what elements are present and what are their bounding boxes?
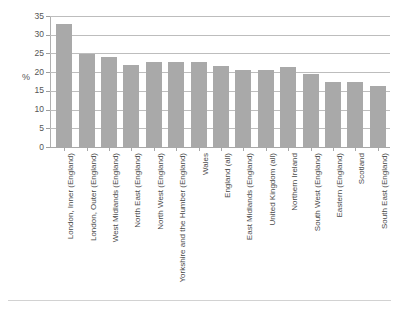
bar [168, 62, 184, 147]
x-tick-mark [333, 147, 334, 151]
x-tick-mark [288, 147, 289, 151]
x-tick-mark [311, 147, 312, 151]
x-axis-label-text: West Midlands (England) [112, 153, 120, 242]
x-axis-label-text: Scotland [358, 153, 366, 184]
y-tick-mark-20 [46, 72, 50, 73]
x-axis-label: Scotland [358, 153, 366, 184]
plot-area [50, 16, 390, 147]
x-axis-label-text: England (all) [224, 153, 232, 198]
x-axis-label: Wales [202, 153, 210, 175]
bar [123, 65, 139, 147]
x-axis-label: London, Outer (England) [90, 153, 98, 241]
x-tick-mark [176, 147, 177, 151]
x-tick-mark [64, 147, 65, 151]
y-tick-label-5: 5 [18, 124, 44, 133]
x-axis-label: Yorkshire and the Humber (England) [179, 153, 187, 283]
y-tick-label-35: 35 [18, 12, 44, 21]
y-tick-label-15: 15 [18, 86, 44, 95]
y-tick-mark-35 [46, 16, 50, 17]
x-axis-label: United Kingdom (all) [269, 153, 277, 225]
bar [213, 66, 229, 147]
y-tick-mark-10 [46, 110, 50, 111]
x-axis-label-text: North West (England) [157, 153, 165, 230]
bar-chart: % 05101520253035 London, Inner (England)… [0, 0, 399, 312]
y-tick-label-30: 30 [18, 30, 44, 39]
x-axis-label: England (all) [224, 153, 232, 198]
bar [235, 70, 251, 147]
x-axis-label: North East (England) [134, 153, 142, 228]
x-axis-label-text: London, Inner (England) [67, 153, 75, 239]
x-axis-label-text: United Kingdom (all) [269, 153, 277, 225]
x-axis-label-text: London, Outer (England) [90, 153, 98, 241]
y-tick-mark-15 [46, 91, 50, 92]
x-axis-label: Northern Ireland [291, 153, 299, 211]
x-axis-label: North West (England) [157, 153, 165, 230]
x-axis-label-text: East Midlands (England) [246, 153, 254, 240]
bar [258, 70, 274, 147]
x-tick-mark [154, 147, 155, 151]
x-axis-labels: London, Inner (England)London, Outer (En… [50, 153, 395, 298]
bar-series [51, 16, 390, 147]
x-axis-label: London, Inner (England) [67, 153, 75, 239]
bar [56, 24, 72, 148]
x-tick-mark [199, 147, 200, 151]
y-tick-label-20: 20 [18, 68, 44, 77]
bar [325, 82, 341, 148]
bar [303, 74, 319, 147]
bar [370, 86, 386, 147]
x-tick-mark [221, 147, 222, 151]
x-axis-label: East Midlands (England) [246, 153, 254, 240]
x-axis-label-text: Wales [202, 153, 210, 175]
bar [146, 62, 162, 147]
x-axis-label: South West (England) [314, 153, 322, 231]
bar [79, 54, 95, 147]
x-axis-ticks [50, 147, 390, 152]
x-tick-mark [355, 147, 356, 151]
x-tick-mark [266, 147, 267, 151]
x-axis-label: Eastern (England) [336, 153, 344, 217]
x-tick-mark [87, 147, 88, 151]
x-tick-mark [243, 147, 244, 151]
x-tick-mark [378, 147, 379, 151]
x-tick-mark [109, 147, 110, 151]
x-axis-label-text: North East (England) [134, 153, 142, 228]
y-tick-label-25: 25 [18, 49, 44, 58]
x-axis-label: West Midlands (England) [112, 153, 120, 242]
x-axis-label-text: Northern Ireland [291, 153, 299, 211]
x-axis-label: South East (England) [381, 153, 389, 229]
bottom-divider [8, 300, 391, 301]
x-axis-label-text: South East (England) [381, 153, 389, 229]
bar [280, 67, 296, 147]
x-axis-label-text: South West (England) [314, 153, 322, 231]
x-tick-mark [131, 147, 132, 151]
bar [191, 62, 207, 147]
y-tick-label-0: 0 [18, 143, 44, 152]
bar [347, 82, 363, 148]
y-tick-mark-30 [46, 35, 50, 36]
y-tick-label-10: 10 [18, 105, 44, 114]
x-axis-label-text: Yorkshire and the Humber (England) [179, 153, 187, 283]
bar [101, 57, 117, 147]
x-axis-label-text: Eastern (England) [336, 153, 344, 217]
y-tick-mark-5 [46, 128, 50, 129]
y-tick-mark-25 [46, 53, 50, 54]
